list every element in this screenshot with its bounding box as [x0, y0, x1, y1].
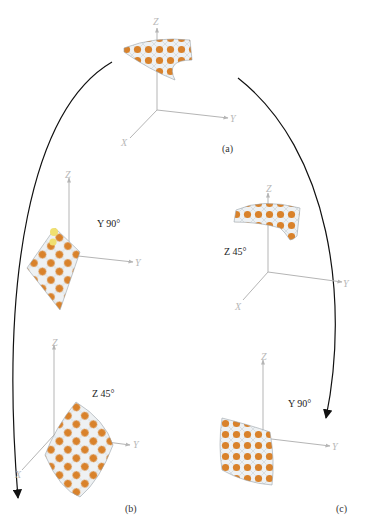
z-axis-label: Z	[52, 337, 58, 348]
panel-a: Z Y X (a)	[120, 16, 237, 155]
rotation-label: Y 90°	[97, 218, 120, 229]
panel-b-y90: Z Y Y 90°	[27, 169, 142, 310]
panel-label-c: (c)	[336, 503, 347, 515]
z-axis-label: Z	[153, 16, 159, 27]
rotation-diagram: Z Y X (a) Z Y Y 90° Z Y X Z 45° (b) Z Y …	[0, 0, 366, 526]
x-axis-label: X	[14, 469, 22, 480]
y-axis-label: Y	[133, 439, 140, 450]
y-axis-label: Y	[343, 278, 350, 289]
x-axis-label: X	[120, 137, 128, 148]
rotation-label: Y 90°	[288, 398, 311, 409]
panel-label-b: (b)	[125, 503, 137, 515]
y-axis-label: Y	[230, 113, 237, 124]
panel-c-z45: Z Y X Z 45°	[224, 183, 350, 312]
panel-b-z45: Z Y X Z 45° (b)	[14, 337, 140, 515]
x-axis-label: X	[234, 301, 242, 312]
z-axis-label: Z	[266, 183, 272, 194]
z-axis-label: Z	[261, 351, 267, 362]
panel-c-y90: Z Y Y 90° (c)	[220, 351, 347, 515]
y-axis-label: Y	[332, 441, 339, 452]
y-axis-label: Y	[135, 257, 142, 268]
arrow-right	[238, 78, 335, 418]
rotation-label: Z 45°	[224, 246, 247, 257]
panel-label-a: (a)	[222, 143, 233, 155]
z-axis-label: Z	[65, 169, 71, 180]
rotation-label: Z 45°	[92, 388, 115, 399]
